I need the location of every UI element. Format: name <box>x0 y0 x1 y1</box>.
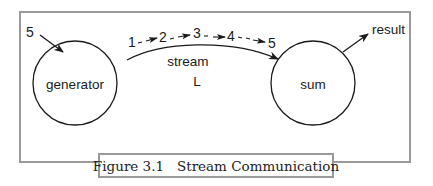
stream-label: stream <box>167 54 208 69</box>
arrow-icon <box>178 35 190 37</box>
arrow-icon <box>146 38 157 41</box>
arrow-icon <box>253 40 265 42</box>
generator-node: generator <box>33 41 117 125</box>
stream-edge: stream L <box>127 45 278 89</box>
stream-item: 1 <box>128 34 136 50</box>
sum-label: sum <box>300 77 326 92</box>
diagram-canvas: generator sum 5 result stream L 1 2 <box>0 0 433 186</box>
stream-item: 5 <box>268 35 276 51</box>
input-label: 5 <box>26 24 34 40</box>
output-arrow: result <box>343 22 405 52</box>
stream-item: 3 <box>193 25 201 41</box>
stream-name: L <box>193 74 201 89</box>
stream-item: 2 <box>159 29 167 45</box>
arrow-icon <box>343 34 368 52</box>
input-arrow: 5 <box>26 24 63 52</box>
output-label: result <box>372 22 405 37</box>
stream-item: 4 <box>227 28 235 44</box>
figure-caption: Figure 3.1 Stream Communication <box>98 153 334 178</box>
stream-items: 1 2 3 4 5 <box>128 25 276 51</box>
sum-node: sum <box>271 41 355 125</box>
generator-label: generator <box>46 77 104 92</box>
